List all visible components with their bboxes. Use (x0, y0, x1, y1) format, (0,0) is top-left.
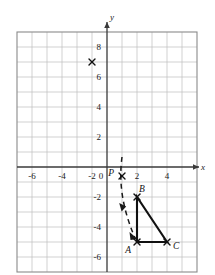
y-axis-label: y (109, 12, 114, 22)
point-label-c: C (173, 241, 180, 251)
x-tick-label: -6 (28, 171, 36, 181)
y-tick-label: 6 (97, 72, 102, 82)
x-axis-label: x (200, 162, 205, 172)
point-label-p: P (107, 168, 114, 178)
point-label-a: A (124, 245, 131, 255)
x-tick-label: 4 (165, 171, 170, 181)
y-tick-label: -2 (94, 192, 102, 202)
y-tick-label: 4 (97, 102, 102, 112)
y-tick-label: -4 (94, 222, 102, 232)
x-tick-label: -4 (58, 171, 66, 181)
y-tick-label: 8 (97, 42, 102, 52)
x-tick-label: 2 (135, 171, 140, 181)
point-label-b: B (139, 184, 145, 194)
y-tick-label: 2 (97, 132, 102, 142)
y-tick-label: -6 (94, 252, 102, 262)
x-tick-label: -2 (88, 171, 96, 181)
coordinate-plane-figure: x y -6 -4 -2 0 2 4 8 6 4 2 -2 -4 -6 (0, 0, 215, 275)
x-tick-label-origin: 0 (99, 171, 104, 181)
graph-svg: x y -6 -4 -2 0 2 4 8 6 4 2 -2 -4 -6 (0, 0, 215, 275)
